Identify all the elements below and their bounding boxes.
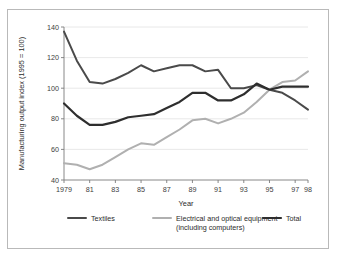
series-line-2 xyxy=(64,71,308,169)
legend-label-1: Textiles xyxy=(91,214,115,223)
x-tick-label: 98 xyxy=(304,185,312,194)
y-tick-label: 40 xyxy=(51,176,59,185)
cut-off-title-strip xyxy=(0,0,337,6)
line-chart: 406080100120140197981838587899193959798Y… xyxy=(8,10,328,248)
y-tick-label: 140 xyxy=(47,23,59,32)
chart-plot-area: 406080100120140197981838587899193959798Y… xyxy=(8,10,328,248)
y-tick-label: 100 xyxy=(47,84,59,93)
chart-figure-frame: 406080100120140197981838587899193959798Y… xyxy=(7,9,329,249)
x-tick-label: 87 xyxy=(163,185,171,194)
y-tick-label: 120 xyxy=(47,53,59,62)
x-tick-label: 95 xyxy=(265,185,273,194)
legend-label-2-line2: (including computers) xyxy=(176,223,245,232)
x-tick-label: 91 xyxy=(214,185,222,194)
x-tick-label: 93 xyxy=(240,185,248,194)
x-tick-label: 81 xyxy=(86,185,94,194)
y-tick-label: 60 xyxy=(51,145,59,154)
legend-label-3: Total xyxy=(286,214,302,223)
x-tick-label: 89 xyxy=(188,185,196,194)
y-tick-label: 80 xyxy=(51,114,59,123)
x-tick-label: 83 xyxy=(111,185,119,194)
x-tick-label: 97 xyxy=(291,185,299,194)
x-axis-title: Year xyxy=(179,199,194,208)
x-tick-label: 1979 xyxy=(56,185,72,194)
x-tick-label: 85 xyxy=(137,185,145,194)
y-axis-title: Manufacturing output index (1995 = 100) xyxy=(17,37,26,170)
